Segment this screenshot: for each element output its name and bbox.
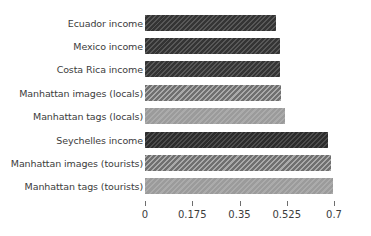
x-axis-tick-label: 0	[142, 209, 148, 221]
bar-category-label: Manhattan images (locals)	[19, 87, 143, 98]
bar-row: Manhattan tags (tourists)	[0, 175, 371, 198]
bar-track	[145, 108, 285, 124]
bar-chart: 00.1750.350.5250.7 Ecuador incomeMexico …	[0, 0, 371, 236]
bar	[145, 155, 331, 171]
bar-track	[145, 85, 281, 101]
x-axis-tick-mark	[334, 201, 335, 206]
x-axis-tick-mark	[240, 201, 241, 206]
bar-row: Costa Rica income	[0, 58, 371, 81]
x-axis-tick-label: 0.7	[326, 209, 342, 221]
bar	[145, 178, 333, 194]
bar-track	[145, 61, 280, 77]
bar	[145, 85, 281, 101]
bar-category-label: Manhattan tags (tourists)	[25, 181, 143, 192]
bar-category-label: Ecuador income	[68, 17, 143, 28]
x-axis-tick-label: 0.175	[178, 209, 207, 221]
bar-category-label: Manhattan images (tourists)	[11, 157, 143, 168]
bar-track	[145, 155, 331, 171]
x-axis: 00.1750.350.5250.7	[0, 198, 371, 236]
bar-row: Ecuador income	[0, 11, 371, 34]
x-axis-tick-label: 0.35	[228, 209, 250, 221]
bar	[145, 108, 285, 124]
bar-row: Manhattan tags (locals)	[0, 105, 371, 128]
bar	[145, 132, 328, 148]
bar	[145, 15, 276, 31]
bar-row: Manhattan images (tourists)	[0, 151, 371, 174]
bar-row: Mexico income	[0, 34, 371, 57]
bar-track	[145, 15, 276, 31]
bar-category-label: Mexico income	[73, 41, 143, 52]
x-axis-tick-label: 0.525	[272, 209, 301, 221]
bar-track	[145, 132, 328, 148]
bar-track	[145, 38, 280, 54]
bar-category-label: Seychelles income	[56, 134, 143, 145]
bar-row: Manhattan images (locals)	[0, 81, 371, 104]
bar	[145, 38, 280, 54]
bar-category-label: Manhattan tags (locals)	[33, 111, 143, 122]
bar-category-label: Costa Rica income	[57, 64, 143, 75]
x-axis-tick-mark	[287, 201, 288, 206]
x-axis-tick-mark	[192, 201, 193, 206]
bar	[145, 61, 280, 77]
bar-row: Seychelles income	[0, 128, 371, 151]
x-axis-tick-mark	[145, 201, 146, 206]
bar-track	[145, 178, 333, 194]
